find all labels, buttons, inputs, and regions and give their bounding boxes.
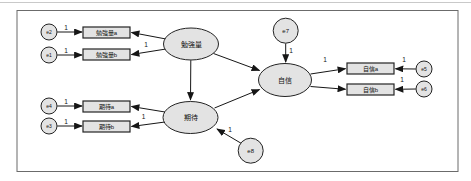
path-coefficient-e7-to-confidence: 1 xyxy=(289,47,293,54)
sem-path-diagram: 勉強量期待自信勉強量a勉強量b期待a期待b自信a自信be2e1e4e3e7e8e… xyxy=(0,0,471,181)
observed-node-label-study-amount-b: 勉強量b xyxy=(96,51,118,59)
error-node-label-e2: e2 xyxy=(46,29,52,35)
error-node-label-e4: e4 xyxy=(46,103,52,109)
path-coefficient-e8-to-expectation: 1 xyxy=(228,126,232,133)
path-coefficient-expectation-to-expectation-b: 1 xyxy=(142,113,146,120)
latent-node-label-confidence: 自信 xyxy=(278,76,292,85)
error-node-label-e5: e5 xyxy=(421,66,427,72)
path-coefficient-e3-to-expectation-b: 1 xyxy=(64,118,68,125)
observed-node-label-confidence-b: 自信b xyxy=(363,86,379,94)
error-node-label-e1: e1 xyxy=(46,52,52,58)
latent-node-label-study-amount: 勉強量 xyxy=(181,40,202,49)
observed-node-label-expectation-a: 期待a xyxy=(99,103,115,111)
path-coefficient-e2-to-study-amount-a: 1 xyxy=(64,24,68,31)
error-node-label-e8: e8 xyxy=(247,148,254,154)
observed-node-label-expectation-b: 期待b xyxy=(99,123,115,131)
observed-node-label-study-amount-a: 勉強量a xyxy=(96,29,118,37)
path-coefficient-e4-to-expectation-a: 1 xyxy=(64,98,68,105)
observed-node-label-confidence-a: 自信a xyxy=(363,65,379,73)
path-coefficient-confidence-to-confidence-a: 1 xyxy=(323,56,327,63)
error-node-label-e3: e3 xyxy=(46,123,52,129)
sem-diagram-page: 勉強量期待自信勉強量a勉強量b期待a期待b自信a自信be2e1e4e3e7e8e… xyxy=(0,0,471,181)
error-node-label-e7: e7 xyxy=(282,28,289,34)
path-coefficient-e1-to-study-amount-b: 1 xyxy=(64,47,68,54)
background-layer xyxy=(0,3,471,172)
path-coefficient-e6-to-confidence-b: 1 xyxy=(400,76,404,83)
path-coefficient-study-amount-to-study-amount-b: 1 xyxy=(144,41,148,48)
error-node-label-e6: e6 xyxy=(421,86,427,92)
path-coefficient-e5-to-confidence-a: 1 xyxy=(402,56,406,63)
latent-node-label-expectation: 期待 xyxy=(184,113,198,122)
